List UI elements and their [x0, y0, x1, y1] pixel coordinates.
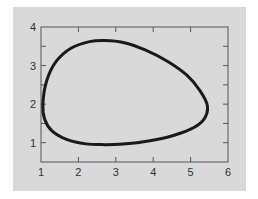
tick-label: 6 [225, 166, 231, 178]
tick-label: 4 [150, 166, 156, 178]
tick-label: 1 [38, 166, 44, 178]
tick-label: 5 [188, 166, 194, 178]
tick-label: 3 [113, 166, 119, 178]
tick-label: 4 [30, 21, 36, 33]
tick-label: 3 [30, 60, 36, 72]
tick-label: 2 [30, 98, 36, 110]
tick-label: 2 [75, 166, 81, 178]
tick-label: 1 [30, 137, 36, 149]
phase-plot: 1234561234 [0, 0, 258, 199]
orbit-curve [43, 40, 208, 144]
